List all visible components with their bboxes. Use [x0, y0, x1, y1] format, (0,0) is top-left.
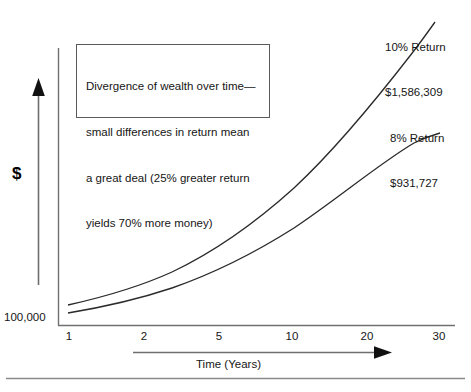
- x-axis-title: Time (Years): [196, 358, 261, 370]
- y-axis-arrow-icon: [32, 78, 45, 285]
- x-tick-label-30: 30: [419, 330, 459, 342]
- chart-figure: Divergence of wealth over time— small di…: [0, 0, 471, 392]
- y-axis-label: $: [12, 164, 21, 184]
- x-tick-label-1: 1: [49, 330, 89, 342]
- callout-line-3: a great deal (25% greater return: [86, 171, 266, 186]
- series-10-name: 10% Return: [385, 40, 446, 55]
- x-tick-label-2: 2: [124, 330, 164, 342]
- divergence-callout-text: Divergence of wealth over time— small di…: [86, 49, 266, 262]
- y-axis-base-label: 100,000: [4, 311, 46, 323]
- callout-line-4: yields 70% more money): [86, 216, 266, 231]
- callout-line-2: small differences in return mean: [86, 125, 266, 140]
- x-tick-label-10: 10: [272, 330, 312, 342]
- series-8-value: $931,727: [390, 176, 444, 191]
- series-label-8pct: 8% Return $931,727: [390, 101, 444, 221]
- series-10-value: $1,586,309: [385, 85, 446, 100]
- x-axis-arrow-icon: [133, 346, 392, 359]
- callout-line-1: Divergence of wealth over time—: [86, 79, 266, 94]
- x-tick-label-20: 20: [347, 330, 387, 342]
- series-8-name: 8% Return: [390, 131, 444, 146]
- x-tick-label-5: 5: [199, 330, 239, 342]
